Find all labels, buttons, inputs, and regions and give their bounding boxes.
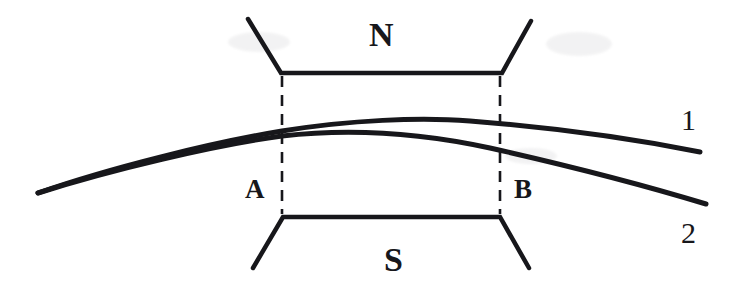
point-b-label: B	[514, 176, 532, 203]
figure-drawing	[0, 0, 736, 292]
south-pole-label: S	[384, 243, 403, 277]
north-pole-label: N	[369, 18, 394, 52]
curve-2-label: 2	[681, 218, 696, 248]
point-a-label: A	[245, 176, 265, 203]
magnet-figure: N S A B 1 2	[0, 0, 736, 292]
trajectory-curve-2	[38, 132, 706, 204]
curve-1-label: 1	[681, 105, 696, 135]
